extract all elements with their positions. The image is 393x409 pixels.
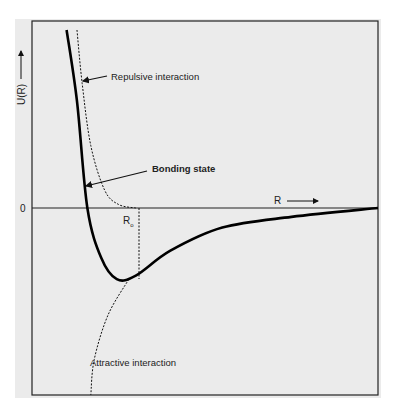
attractive-label: Attractive interaction [90,357,176,368]
y-axis-label: U(R) [16,84,27,105]
attractive-curve [91,279,129,395]
repulsive-arrow-icon [83,76,107,81]
repulsive-label: Repulsive interaction [111,71,199,82]
x-axis-label: R [274,195,281,206]
potential-energy-diagram: 0 U(R) R Ro Repulsive interaction Bondin… [0,0,393,409]
bonding-curve [67,30,378,281]
bonding-label: Bonding state [152,163,215,174]
equilibrium-label: Ro [123,215,134,228]
y-zero-label: 0 [20,203,26,214]
bonding-arrow-icon [86,171,147,186]
